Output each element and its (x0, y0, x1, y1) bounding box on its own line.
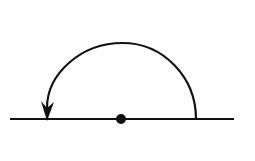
diagram-svg (0, 0, 255, 161)
center-point (116, 114, 126, 124)
semicircle-arc (47, 43, 196, 119)
diagram-canvas (0, 0, 255, 161)
